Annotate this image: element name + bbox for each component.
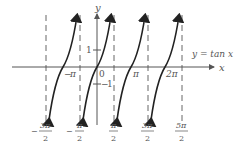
svg-text:−: − (66, 127, 73, 136)
asym-label-3pi-2: 3π 2 (141, 121, 154, 143)
origin-label: 0 (99, 69, 105, 79)
svg-text:2: 2 (111, 134, 116, 143)
svg-text:−: − (31, 127, 38, 136)
y-tick-label-1: 1 (86, 45, 92, 55)
svg-text:3π: 3π (40, 121, 51, 130)
asym-label-pi-2: π 2 (109, 121, 118, 143)
asym-label-neg-3pi-2: − 3π 2 (31, 121, 52, 143)
svg-text:3π: 3π (142, 121, 153, 130)
svg-text:2: 2 (43, 134, 48, 143)
branch-centered-2pi (151, 16, 179, 120)
svg-text:2: 2 (145, 134, 150, 143)
y-axis-label: y (94, 2, 101, 13)
asym-label-neg-pi-2: − π 2 (66, 121, 84, 143)
two-pi-label: 2π (165, 69, 179, 79)
svg-text:π: π (110, 121, 117, 130)
pi-label: π (132, 69, 140, 79)
asymptote-labels: − 3π 2 − π 2 π 2 3π 2 5π 2 (31, 121, 188, 143)
neg-pi-label: π (69, 69, 77, 79)
y-tick-label-neg1: 1 (107, 79, 113, 89)
svg-text:5π: 5π (176, 121, 187, 130)
branch-centered-pi (117, 16, 145, 120)
tangent-graph-figure: y x y = tan x 1 − 1 0 − π π 2π − 3π 2 − … (0, 0, 241, 145)
svg-text:2: 2 (77, 134, 82, 143)
x-axis-label: x (219, 62, 225, 73)
svg-text:2: 2 (179, 134, 184, 143)
equation-label: y = tan x (191, 49, 233, 59)
asym-label-5pi-2: 5π 2 (175, 121, 188, 143)
svg-text:π: π (76, 121, 83, 130)
branch-centered-neg-pi (49, 16, 77, 120)
graph-canvas: y x y = tan x 1 − 1 0 − π π 2π − 3π 2 − … (0, 0, 241, 145)
